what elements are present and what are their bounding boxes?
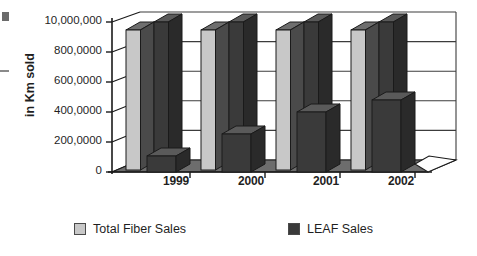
bar-total-fiber-sales-1999 — [126, 22, 154, 170]
y-axis-ticks — [106, 22, 112, 172]
x-tick-label: 1999 — [146, 174, 206, 188]
bar-leaf-sales-2000 — [229, 14, 257, 134]
bar-group-2002 — [351, 14, 415, 172]
bar-leaf-sales-front-2000 — [222, 126, 265, 172]
bar-group-1999 — [126, 14, 190, 172]
bar-leaf-sales-front-2002 — [372, 92, 415, 172]
legend-item-leaf-sales: LEAF Sales — [288, 222, 373, 236]
bar-leaf-sales-1999 — [154, 14, 182, 156]
legend-swatch-icon — [288, 223, 300, 235]
bar-chart: in Km sold 10,000,000 800,0000 600,0000 … — [0, 0, 477, 256]
legend-item-total-fiber-sales: Total Fiber Sales — [74, 222, 186, 236]
bar-leaf-sales-front-2001 — [297, 104, 340, 172]
x-axis-tick-labels: 1999 2000 2001 2002 — [0, 174, 477, 194]
x-tick-label: 2000 — [221, 174, 281, 188]
legend-label: Total Fiber Sales — [93, 222, 186, 236]
x-tick-label: 2001 — [296, 174, 356, 188]
chart-legend: Total Fiber Sales LEAF Sales — [0, 218, 477, 248]
bar-leaf-sales-2002 — [379, 14, 407, 100]
legend-swatch-icon — [74, 223, 86, 235]
legend-label: LEAF Sales — [307, 222, 373, 236]
x-tick-label: 2002 — [371, 174, 431, 188]
bar-leaf-sales-2001 — [304, 14, 332, 112]
bar-group-2000 — [201, 14, 265, 172]
bar-group-2001 — [276, 14, 340, 172]
